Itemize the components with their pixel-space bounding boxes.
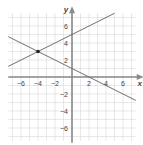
x-tick-label: −4	[34, 80, 42, 87]
y-tick-label: −2	[60, 91, 68, 98]
coordinate-plane: −6−4−2246642−2−4−6xy	[0, 0, 143, 145]
y-axis-arrow-icon	[69, 6, 75, 13]
x-tick-label: −6	[17, 80, 25, 87]
y-axis-label: y	[63, 5, 69, 14]
x-tick-label: 2	[87, 80, 91, 87]
y-tick-label: −4	[60, 108, 68, 115]
y-tick-label: 6	[64, 23, 68, 30]
points	[36, 50, 40, 54]
line-rising	[8, 13, 114, 66]
x-axis-label: x	[137, 79, 143, 88]
x-tick-label: 4	[104, 80, 108, 87]
x-tick-label: −2	[51, 80, 59, 87]
y-tick-label: 4	[64, 40, 68, 47]
intersection-point	[36, 50, 40, 54]
y-tick-label: −6	[60, 125, 68, 132]
x-tick-label: 6	[121, 80, 125, 87]
y-tick-label: 2	[64, 57, 68, 64]
